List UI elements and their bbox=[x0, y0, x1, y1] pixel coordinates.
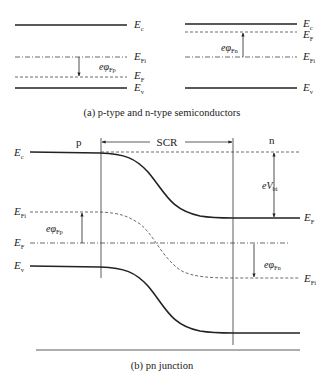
p-type-band-diagram: Ec EFi EF Ev eφFp bbox=[15, 18, 146, 95]
ec-label: Ec bbox=[13, 146, 24, 160]
caption-part-a: (a) p-type and n-type semiconductors bbox=[84, 107, 241, 119]
n-phi-fn-label: eφFn bbox=[221, 42, 239, 54]
p-phi-fp-label: eφFp bbox=[99, 61, 116, 73]
efi-label-left: EFi bbox=[13, 205, 26, 219]
phi-fp-label: eφFp bbox=[46, 223, 63, 235]
pn-junction-diagram: p n SCR Ec EFi EF Ev EF EFi eVbi bbox=[13, 134, 316, 350]
ef-label-left: EF bbox=[13, 236, 25, 250]
pn-junction-band-diagram: Ec EFi EF Ev eφFp Ec EF EFi Ev eφFn (a) … bbox=[0, 0, 325, 377]
n-region-label: n bbox=[269, 134, 275, 146]
p-ec-label: Ec bbox=[133, 18, 144, 32]
p-region-label: p bbox=[76, 136, 82, 148]
phi-fn-label: eφFn bbox=[264, 259, 282, 271]
n-efi-label: EFi bbox=[302, 50, 315, 64]
scr-label: SCR bbox=[157, 136, 178, 148]
caption-part-b: (b) pn junction bbox=[131, 360, 194, 372]
p-ev-label: Ev bbox=[133, 81, 145, 95]
n-ev-label: Ev bbox=[302, 81, 314, 95]
conduction-band-curve bbox=[30, 152, 300, 218]
vbi-label: eVbi bbox=[262, 180, 278, 192]
n-type-band-diagram: Ec EF EFi Ev eφFn bbox=[185, 17, 315, 95]
ef-label-right: EF bbox=[303, 211, 315, 225]
intrinsic-fermi-curve bbox=[30, 212, 300, 278]
p-efi-label: EFi bbox=[133, 50, 146, 64]
efi-label-right: EFi bbox=[303, 272, 316, 286]
ev-label: Ev bbox=[13, 259, 25, 273]
valence-band-curve bbox=[30, 266, 300, 333]
